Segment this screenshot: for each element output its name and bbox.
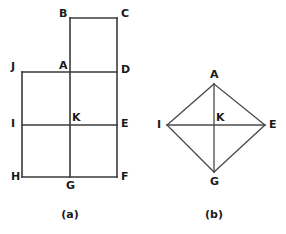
- caption-panel-a: (a): [61, 208, 78, 221]
- panel-b-vertex-label-g: G: [210, 175, 219, 188]
- panel-b-edge-group: [167, 84, 265, 172]
- panel-a-vertex-label-g: G: [66, 179, 75, 192]
- panel-b-edge-e-g: [214, 125, 265, 172]
- panel-a-vertex-label-f: F: [121, 170, 129, 183]
- panel-a-vertex-label-b: B: [59, 7, 67, 20]
- panel-a-vertex-label-j: J: [10, 60, 15, 73]
- panel-a-vertex-label-k: K: [72, 111, 81, 124]
- panel-a-vertex-label-i: I: [11, 117, 15, 130]
- panel-a-vertex-label-h: H: [11, 170, 20, 183]
- panel-b-vertex-label-i: I: [157, 118, 161, 131]
- geometry-figure-canvas: BCADJIKEHGF AIKEG (a) (b): [0, 0, 286, 234]
- panel-a-vertex-label-a: A: [59, 59, 68, 72]
- caption-panel-b: (b): [205, 208, 223, 221]
- panel-b-vertex-label-k: K: [216, 111, 225, 124]
- panel-a-vertex-label-e: E: [121, 117, 129, 130]
- panel-b-vertex-label-a: A: [210, 68, 219, 81]
- panel-b-vertex-label-e: E: [269, 118, 277, 131]
- panel-a-vertex-label-d: D: [121, 63, 130, 76]
- panel-a-vertex-label-c: C: [121, 7, 129, 20]
- panel-b-edge-i-g: [167, 125, 214, 172]
- panel-a-edge-group: [22, 18, 117, 177]
- panel-b-edge-a-i: [167, 84, 214, 125]
